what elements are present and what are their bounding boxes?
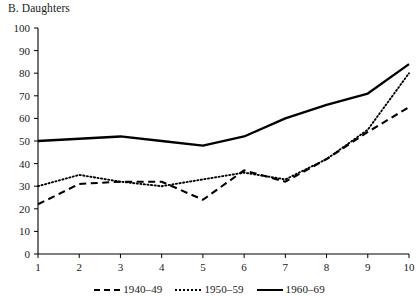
dashed-line-icon [94,284,120,294]
y-axis-tick-marks [34,28,38,254]
x-axis-tick-label: 6 [241,261,247,273]
x-axis-tick-label: 10 [404,261,416,273]
x-axis-tick-label: 9 [365,261,371,273]
x-axis-tick-label: 1 [35,261,41,273]
y-axis-tick-label: 50 [19,135,31,147]
x-axis-tick-marks [38,254,409,258]
y-axis-tick-label: 90 [19,45,31,57]
solid-line-icon [257,284,283,294]
legend-item-label: 1950–59 [204,283,243,295]
y-axis-tick-label: 80 [19,67,31,79]
x-axis-tick-label: 4 [159,261,165,273]
x-axis-tick-label: 8 [324,261,330,273]
x-axis-tick-label: 2 [76,261,82,273]
y-axis-tick-label: 30 [19,180,31,192]
x-axis-tick-label: 5 [200,261,206,273]
y-axis-tick-label: 100 [14,22,31,34]
series-line-1940-49 [38,107,409,204]
legend-item-label: 1960–69 [286,283,325,295]
x-axis-tick-label: 3 [118,261,124,273]
y-axis-tick-label: 40 [19,158,31,170]
legend-item-label: 1940–49 [123,283,162,295]
y-axis-tick-label: 70 [19,90,31,102]
x-axis-tick-labels: 12345678910 [35,261,415,273]
series-line-1960-69 [38,64,409,145]
data-series-group [38,64,409,204]
y-axis-tick-label: 0 [25,248,31,260]
series-line-1950-59 [38,73,409,186]
y-axis-tick-label: 20 [19,203,31,215]
legend-item-1940-49[interactable]: 1940–49 [94,283,162,295]
chart-legend: 1940–49 1950–59 1960–69 [0,283,419,295]
y-axis-tick-label: 60 [19,112,31,124]
y-axis-tick-label: 10 [19,225,31,237]
line-chart-plot: 0102030405060708090100 12345678910 [0,0,419,297]
dotted-line-icon [175,284,201,294]
legend-item-1960-69[interactable]: 1960–69 [257,283,325,295]
x-axis-tick-label: 7 [283,261,289,273]
y-axis-tick-labels: 0102030405060708090100 [14,22,31,260]
legend-item-1950-59[interactable]: 1950–59 [175,283,243,295]
chart-figure: B. Daughters 0102030405060708090100 1234… [0,0,419,297]
